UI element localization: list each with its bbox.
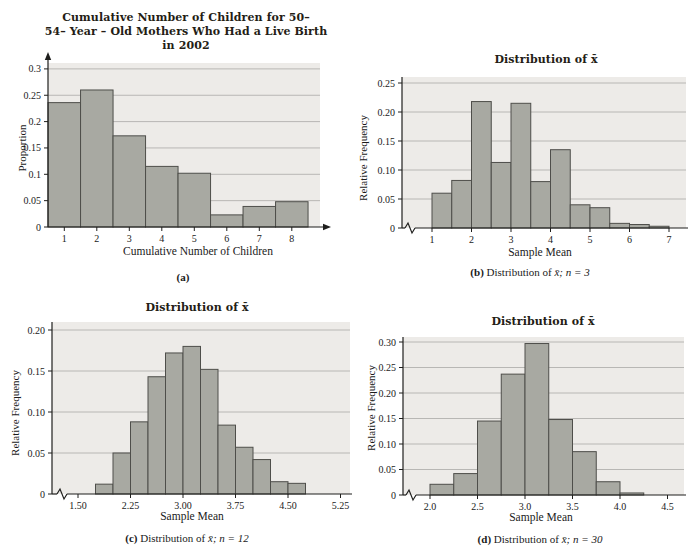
chart-c-xlabel: Sample Mean [160,510,224,522]
chart-d-caption-math: x̄; n = 30 [562,533,603,545]
chart-a-ylabel: Proportion [16,124,28,171]
svg-text:0.10: 0.10 [379,439,397,450]
svg-text:2: 2 [94,233,99,244]
svg-text:0.15: 0.15 [379,413,397,424]
svg-text:7: 7 [667,234,672,245]
chart-c-ylabel: Relative Frequency [9,370,21,456]
svg-text:4.50: 4.50 [279,500,297,511]
svg-text:0.05: 0.05 [24,195,42,206]
chart-a-title-line1: Cumulative Number of Children for 50– [36,11,336,25]
svg-text:0.25: 0.25 [24,90,42,101]
svg-text:0: 0 [390,223,395,234]
svg-text:2: 2 [469,234,474,245]
chart-d-xlabel: Sample Mean [509,511,573,523]
svg-text:0.15: 0.15 [28,366,46,377]
svg-text:4.5: 4.5 [661,501,674,512]
chart-a-title-line2: 54– Year – Old Mothers Who Had a Live Bi… [36,25,336,39]
svg-text:1.50: 1.50 [69,500,87,511]
chart-d-ylabel: Relative Frequency [365,365,377,451]
svg-text:0.20: 0.20 [379,388,397,399]
svg-text:0.25: 0.25 [378,78,396,89]
svg-text:0.25: 0.25 [379,362,397,373]
svg-text:3.75: 3.75 [227,500,245,511]
svg-text:2.5: 2.5 [471,501,484,512]
svg-text:0.20: 0.20 [28,325,46,336]
chart-b-caption-text: Distribution of [487,266,552,278]
svg-text:6: 6 [627,234,632,245]
svg-text:1: 1 [62,233,67,244]
chart-a-plot: 00.050.10.150.20.250.312345678 [24,52,332,244]
svg-text:0: 0 [391,490,396,501]
chart-d-title: Distribution of x̄ [443,315,643,329]
plots-layer: 00.050.10.150.20.250.312345678 00.050.10… [0,0,696,553]
chart-b-caption: (b) Distribution of x̄; n = 3 [470,266,589,278]
chart-b-caption-math: x̄; n = 3 [554,266,589,278]
svg-text:0.10: 0.10 [28,407,46,418]
svg-text:0.10: 0.10 [378,165,396,176]
chart-a-caption: (a) [177,271,190,283]
chart-a-xlabel: Cumulative Number of Children [123,245,273,257]
svg-text:5.25: 5.25 [332,500,350,511]
chart-d-caption: (d) Distribution of x̄; n = 30 [478,533,603,545]
figure-canvas: 00.050.10.150.20.250.312345678 00.050.10… [0,0,696,553]
svg-text:3: 3 [127,233,132,244]
svg-text:0.15: 0.15 [378,136,396,147]
svg-text:8: 8 [289,233,294,244]
svg-text:5: 5 [588,234,593,245]
svg-text:0.20: 0.20 [378,107,396,118]
svg-text:0: 0 [40,489,45,500]
svg-text:1: 1 [430,234,435,245]
chart-b-caption-label: (b) [470,266,483,278]
chart-d-caption-label: (d) [478,533,491,545]
svg-text:4: 4 [159,233,164,244]
chart-c-plot: 00.050.100.150.201.502.253.003.754.505.2… [28,322,353,511]
chart-b-title: Distribution of x̄ [446,53,646,67]
svg-text:0.2: 0.2 [29,116,42,127]
chart-a-caption-label: (a) [177,271,190,283]
svg-text:0.05: 0.05 [378,194,396,205]
chart-b-xlabel: Sample Mean [508,246,572,258]
svg-text:0.3: 0.3 [29,63,42,74]
chart-d-plot: 00.050.100.150.200.250.302.02.53.03.54.0… [379,337,687,513]
svg-text:0.05: 0.05 [28,448,46,459]
svg-text:5: 5 [192,233,197,244]
chart-a-title-line3: in 2002 [36,39,336,53]
chart-c-caption: (c) Distribution of x̄; n = 12 [125,532,249,544]
chart-b-plot: 00.050.100.150.200.251234567 [378,77,689,245]
svg-text:4: 4 [548,234,553,245]
svg-text:0.30: 0.30 [379,337,397,348]
svg-text:6: 6 [224,233,229,244]
svg-text:7: 7 [257,233,262,244]
svg-text:2.25: 2.25 [122,500,140,511]
chart-a-title: Cumulative Number of Children for 50– 54… [36,11,336,53]
chart-d-caption-text: Distribution of [494,533,559,545]
chart-c-caption-text: Distribution of [140,532,205,544]
svg-text:3: 3 [509,234,514,245]
chart-c-caption-math: x̄; n = 12 [208,532,249,544]
svg-text:0.1: 0.1 [29,169,42,180]
svg-text:0: 0 [36,222,41,233]
svg-text:4.0: 4.0 [614,501,627,512]
svg-text:0.05: 0.05 [379,464,397,475]
chart-c-caption-label: (c) [125,532,137,544]
chart-b-ylabel: Relative Frequency [357,115,369,201]
svg-text:2.0: 2.0 [424,501,437,512]
chart-c-title: Distribution of x̄ [97,301,297,315]
